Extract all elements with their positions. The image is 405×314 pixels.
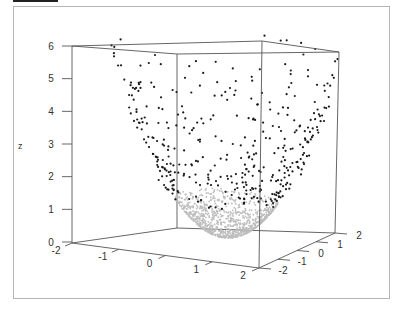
y-tick-label: 1 [337, 239, 343, 250]
z-tick-label: 2 [48, 171, 54, 182]
z-tick-label: 1 [48, 204, 54, 215]
z-tick-label: 4 [48, 106, 54, 117]
y-tick-label: -2 [279, 265, 288, 276]
y-tick-label: -1 [298, 256, 307, 267]
z-tick-label: 6 [48, 41, 54, 52]
series-upper-points [110, 35, 338, 210]
x-tick-label: 0 [147, 258, 153, 269]
scatter-3d-plot: 0123456 -2-1012 -2-1012 z [0, 0, 405, 314]
x-tick-label: 2 [240, 270, 246, 281]
x-axis: -2-1012 [52, 243, 259, 281]
z-axis-label: z [18, 141, 23, 151]
x-tick-label: 1 [193, 264, 199, 275]
y-tick-label: 0 [318, 248, 324, 259]
x-tick-label: -2 [52, 245, 61, 256]
y-tick-label: 2 [356, 230, 362, 241]
x-tick-label: -1 [98, 251, 107, 262]
y-axis: -2-1012 [259, 230, 362, 276]
z-axis: 0123456 [48, 41, 72, 248]
z-tick-label: 3 [48, 139, 54, 150]
z-tick-label: 5 [48, 73, 54, 84]
box-front-edges [72, 41, 339, 268]
